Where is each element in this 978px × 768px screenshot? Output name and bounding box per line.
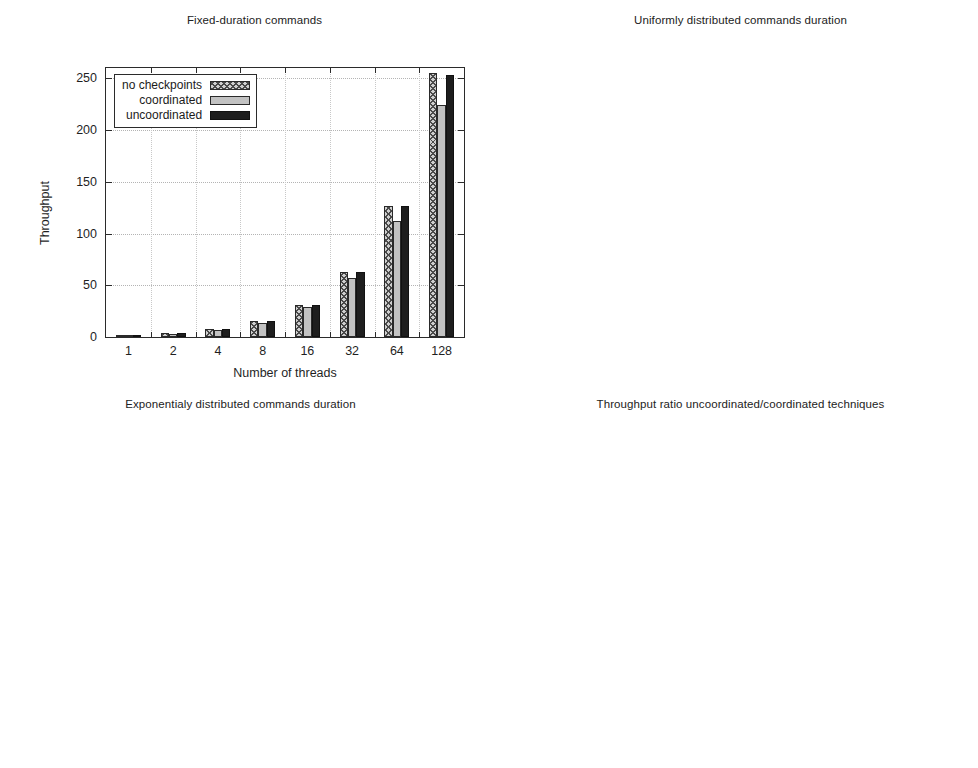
bar: [250, 321, 258, 337]
chart-panel-fixed-duration-commands: Fixed-duration commands Throughput Numbe…: [0, 0, 489, 384]
y-axis-label: Throughput: [38, 181, 52, 245]
bar-group: [419, 73, 464, 337]
bar: [116, 335, 124, 337]
chart-panel-uniformly-distributed-commands-duration: Uniformly distributed commands duration …: [489, 0, 978, 384]
bar-group: [330, 272, 375, 337]
chart-title: Exponentialy distributed commands durati…: [22, 398, 459, 410]
bar: [214, 330, 222, 337]
x-tick-label: 8: [259, 344, 266, 358]
chart-title: Uniformly distributed commands duration: [519, 14, 962, 26]
x-tick-mark: [196, 68, 197, 73]
x-gridline: [285, 68, 286, 337]
y-tick-label: 50: [83, 278, 106, 292]
chart-legend: no checkpointscoordinateduncoordinated: [114, 74, 257, 128]
bar: [205, 329, 213, 337]
x-tick-label: 4: [214, 344, 221, 358]
y-tick-label: 100: [76, 227, 106, 241]
y-tick-mark: [106, 130, 112, 131]
bar: [401, 206, 409, 337]
x-tick-mark: [375, 68, 376, 73]
bar: [177, 333, 185, 337]
legend-swatch: [210, 111, 250, 120]
bar: [267, 321, 275, 337]
y-tick-mark: [106, 78, 112, 79]
legend-label: no checkpoints: [122, 79, 202, 92]
bar: [169, 334, 177, 337]
x-tick-mark: [285, 68, 286, 73]
y-tick-mark: [106, 234, 112, 235]
bar: [446, 75, 454, 337]
bar: [258, 323, 266, 337]
y-tick-label: 150: [76, 175, 106, 189]
bar-group: [196, 329, 241, 337]
x-axis-label: Number of threads: [105, 366, 465, 380]
legend-label: coordinated: [139, 94, 202, 107]
chart-panel-throughput-ratio: Throughput ratio uncoordinated/coordinat…: [489, 384, 978, 768]
bar: [295, 305, 303, 337]
x-tick-label: 128: [431, 344, 452, 358]
y-tick-label: 0: [90, 330, 106, 344]
bar: [303, 307, 311, 337]
y-tick-mark: [458, 337, 464, 338]
figure-grid: Fixed-duration commands Throughput Numbe…: [0, 0, 978, 768]
y-tick-mark: [106, 285, 112, 286]
y-tick-label: 200: [76, 123, 106, 137]
x-tick-mark: [330, 68, 331, 73]
bar: [133, 335, 141, 337]
chart-title: Fixed-duration commands: [30, 14, 479, 26]
y-tick-mark: [106, 337, 112, 338]
legend-item: no checkpoints: [122, 79, 250, 92]
bar: [348, 278, 356, 337]
bar: [340, 272, 348, 337]
y-tick-mark: [106, 182, 112, 183]
bar-group: [151, 333, 196, 337]
bar-group: [240, 321, 285, 337]
bar: [222, 329, 230, 337]
x-tick-label: 32: [345, 344, 359, 358]
x-tick-mark: [240, 68, 241, 73]
bar: [124, 335, 132, 337]
x-tick-mark: [151, 68, 152, 73]
legend-swatch: [210, 81, 250, 90]
legend-swatch: [210, 96, 250, 105]
legend-item: uncoordinated: [122, 109, 250, 122]
bar: [437, 105, 445, 337]
legend-label: uncoordinated: [126, 109, 202, 122]
bar-group: [375, 206, 420, 337]
bar-group: [106, 335, 151, 337]
bar-group: [285, 305, 330, 337]
chart-title: Throughput ratio uncoordinated/coordinat…: [513, 398, 968, 410]
x-tick-label: 64: [390, 344, 404, 358]
bar: [356, 272, 364, 337]
x-tick-label: 1: [125, 344, 132, 358]
x-tick-label: 2: [170, 344, 177, 358]
bar: [161, 333, 169, 337]
x-tick-label: 16: [300, 344, 314, 358]
chart-panel-exponentialy-distributed-commands-duration: Exponentialy distributed commands durati…: [0, 384, 489, 768]
bar: [393, 221, 401, 337]
bar: [429, 73, 437, 337]
plot-area: 0501001502002501248163264128no checkpoin…: [105, 67, 465, 338]
legend-item: coordinated: [122, 94, 250, 107]
bar: [384, 206, 392, 337]
bar: [312, 305, 320, 337]
y-tick-label: 250: [76, 71, 106, 85]
